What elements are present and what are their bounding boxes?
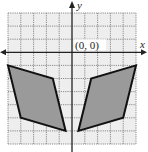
coordinate-plane-diagram: (0, 0) x y [0, 0, 148, 152]
origin-label: (0, 0) [75, 39, 99, 52]
y-axis-arrow-up-icon [69, 1, 75, 8]
plot-canvas: (0, 0) x y [0, 0, 148, 152]
x-axis-arrow-left-icon [0, 49, 6, 55]
y-axis-label: y [76, 0, 82, 11]
x-axis-label: x [139, 38, 145, 50]
